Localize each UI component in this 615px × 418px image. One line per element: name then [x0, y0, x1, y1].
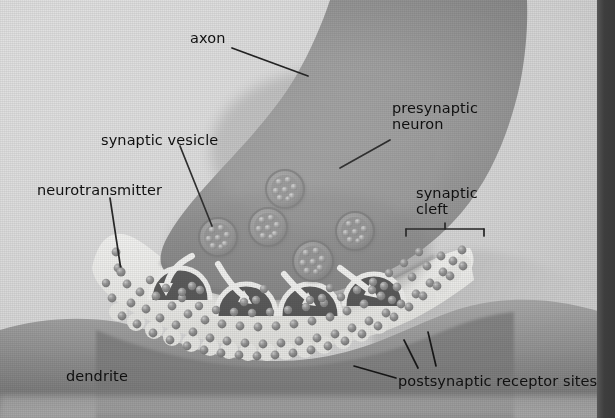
label-synaptic-vesicle: synaptic vesicle [101, 132, 218, 148]
label-synaptic-cleft: synaptic cleft [416, 185, 478, 217]
right-edge-dark-band [597, 0, 615, 418]
synaptic-vesicle [199, 218, 239, 258]
synaptic-vesicle [293, 241, 335, 283]
synapse-illustration [0, 0, 615, 418]
dendrite-bottom-highlight [0, 396, 615, 418]
label-dendrite: dendrite [66, 368, 128, 384]
label-postsynaptic-receptor-sites: postsynaptic receptor sites [398, 373, 597, 389]
label-axon: axon [190, 30, 225, 46]
synaptic-vesicle [266, 170, 306, 210]
synaptic-vesicle [249, 208, 289, 248]
synapse-diagram-figure: axon presynaptic neuron synaptic vesicle… [0, 0, 615, 418]
leader-neurotransmitter-target [116, 267, 125, 276]
synaptic-vesicle [336, 212, 376, 252]
label-presynaptic-neuron: presynaptic neuron [392, 100, 478, 132]
label-neurotransmitter: neurotransmitter [37, 182, 162, 198]
